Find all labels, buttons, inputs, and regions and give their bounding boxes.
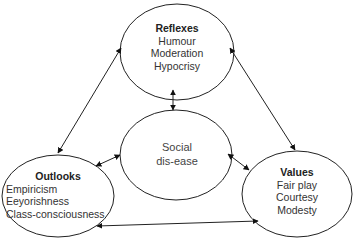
edge-outlooks-values (97, 221, 258, 226)
social-subtitle: dis-ease (122, 154, 232, 168)
outlooks-item: Class-consciousness (6, 208, 110, 221)
outlooks-label: Outlooks Empiricism Eeyorishness Class-c… (6, 170, 110, 220)
edge-reflexes-values (230, 48, 295, 150)
outlooks-title: Outlooks (6, 170, 110, 183)
outlooks-item: Eeyorishness (6, 195, 110, 208)
edge-social-outlooks (96, 155, 120, 166)
values-item: Courtesy (262, 191, 332, 204)
reflexes-label: Reflexes Humour Moderation Hypocrisy (120, 22, 234, 72)
reflexes-item: Hypocrisy (120, 60, 234, 73)
values-label: Values Fair play Courtesy Modesty (262, 166, 332, 216)
social-label: Social dis-ease (122, 140, 232, 168)
social-title: Social (122, 140, 232, 154)
reflexes-title: Reflexes (120, 22, 234, 35)
edge-reflexes-outlooks (58, 48, 121, 153)
values-item: Modesty (262, 204, 332, 217)
reflexes-item: Humour (120, 35, 234, 48)
reflexes-item: Moderation (120, 47, 234, 60)
outlooks-item: Empiricism (6, 183, 110, 196)
values-title: Values (262, 166, 332, 179)
values-item: Fair play (262, 179, 332, 192)
